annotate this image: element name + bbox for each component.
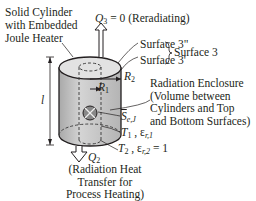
t1-label: T1 , εr,1 <box>121 126 153 138</box>
t2-label: T2 , εr,2 = 1 <box>118 142 168 154</box>
enclosure-label-line: (Volume between <box>150 90 250 103</box>
q2-label: Q2 <box>88 151 100 163</box>
enclosure-label-line: and Bottom Surfaces) <box>150 115 250 128</box>
q3-arrow <box>95 23 107 57</box>
q2-description-line: Transfer for <box>55 176 155 189</box>
heater-label-line: Joule Heater <box>5 32 78 45</box>
heater-label-line: Solid Cylinder <box>5 6 78 19</box>
r1-label: R1 <box>98 81 109 93</box>
enclosure-label-line: Cylinders and Top <box>150 102 250 115</box>
r2-label: R2 <box>124 70 135 82</box>
enclosure-label: Radiation Enclosure (Volume between Cyli… <box>150 77 250 127</box>
surface-3-label: Surface 3 <box>174 46 218 58</box>
q2-description-line: (Radiation Heat <box>55 163 155 176</box>
q2-arrow <box>71 146 87 162</box>
heater-label-line: with Embedded <box>5 19 78 32</box>
q2-description: (Radiation Heat Transfer for Process Hea… <box>55 163 155 201</box>
outer-cylinder-top <box>59 57 121 79</box>
enclosure-label-line: Radiation Enclosure <box>150 77 250 90</box>
heater-label: Solid Cylinder with Embedded Joule Heate… <box>5 6 78 45</box>
q2-description-line: Process Heating) <box>55 188 155 201</box>
length-label: l <box>41 94 44 106</box>
source-label: Se,J <box>121 110 136 122</box>
q3-label: Q3 = 0 (Reradiating) <box>95 12 190 24</box>
